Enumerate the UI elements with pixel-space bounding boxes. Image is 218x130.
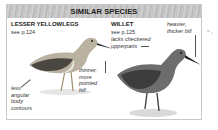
lesser-yellowlegs-illustration [21,29,117,97]
note-less-angular-body: less angular body contours [11,85,32,111]
similar-species-panel: SIMILAR SPECIES LESSER YELLOWLEGS see p.… [6,4,202,120]
willet-illustration [115,43,203,121]
note-heavier-thicker-bill: heavier, thicker bill [167,21,191,34]
leader-line-bill-lesser [105,61,106,73]
panel-header: SIMILAR SPECIES [7,5,201,18]
margin-mark [207,30,213,34]
page-ref-willet: see p.125 [111,29,135,35]
species-name-lesser-yellowlegs: LESSER YELLOWLEGS [11,21,79,27]
species-name-willet: WILLET [111,21,133,27]
note-thinner-bill: thinner, more pointed bill [79,67,97,93]
panel-title: SIMILAR SPECIES [71,7,138,16]
